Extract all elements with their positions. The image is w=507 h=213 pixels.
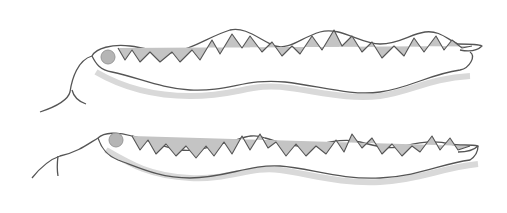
eye-icon xyxy=(109,133,123,147)
snake-top xyxy=(40,29,482,112)
eye-icon xyxy=(101,50,115,64)
snakes-illustration xyxy=(0,0,507,213)
snake-bottom xyxy=(32,133,478,182)
drawing-canvas: Pencil drawing of two snakes with zigzag… xyxy=(0,0,507,213)
